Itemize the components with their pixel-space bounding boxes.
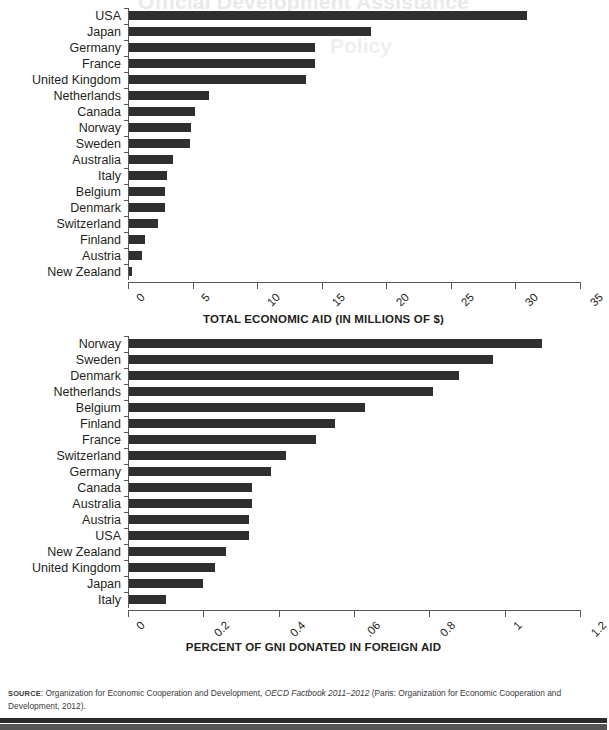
bar-row: France	[0, 432, 607, 448]
bar-track	[128, 432, 607, 448]
bar-category-label: Sweden	[0, 136, 128, 152]
bar-track	[128, 104, 607, 120]
axis-tick	[386, 282, 387, 289]
bar-category-label: France	[0, 56, 128, 72]
bar-row: Netherlands	[0, 88, 607, 104]
bar-category-label: Canada	[0, 104, 128, 120]
bar	[128, 419, 335, 428]
bar-category-label: Sweden	[0, 352, 128, 368]
bar-row: Australia	[0, 152, 607, 168]
bar-category-label: France	[0, 432, 128, 448]
source-text-part1: : Organization for Economic Cooperation …	[41, 688, 265, 698]
bar-track	[128, 464, 607, 480]
chart-2-bar-rows: NorwaySwedenDenmarkNetherlandsBelgiumFin…	[0, 336, 607, 608]
bar-row: Switzerland	[0, 216, 607, 232]
bar-row: Canada	[0, 480, 607, 496]
bar-category-label: Netherlands	[0, 384, 128, 400]
bar-row: Japan	[0, 24, 607, 40]
axis-tick	[322, 282, 323, 289]
bar	[128, 123, 191, 132]
bar-category-label: Austria	[0, 248, 128, 264]
bar	[128, 59, 315, 68]
bar	[128, 387, 433, 396]
bar-track	[128, 152, 607, 168]
chart-1-value-axis: 05101520253035	[128, 282, 580, 283]
bar	[128, 43, 315, 52]
bar-category-label: USA	[0, 8, 128, 24]
bar-category-label: Belgium	[0, 184, 128, 200]
bar-row: Australia	[0, 496, 607, 512]
bar-track	[128, 248, 607, 264]
axis-tick	[279, 610, 280, 617]
axis-tick	[580, 610, 581, 617]
bar-category-label: Norway	[0, 120, 128, 136]
bar-category-label: Japan	[0, 24, 128, 40]
axis-tick-label: 10	[265, 291, 283, 309]
bar	[128, 563, 215, 572]
axis-tick-label: 0	[134, 291, 147, 304]
bar-category-label: Australia	[0, 496, 128, 512]
axis-tick	[354, 610, 355, 617]
bar-category-label: Australia	[0, 152, 128, 168]
bar	[128, 531, 249, 540]
bar-row: USA	[0, 8, 607, 24]
chart-1-category-axis	[128, 8, 129, 280]
bar-track	[128, 528, 607, 544]
bar-row: United Kingdom	[0, 72, 607, 88]
bar-track	[128, 496, 607, 512]
bar-category-label: Italy	[0, 168, 128, 184]
bar-track	[128, 512, 607, 528]
bar-row: Norway	[0, 120, 607, 136]
bar-track	[128, 24, 607, 40]
bar-category-label: Netherlands	[0, 88, 128, 104]
bar-row: Finland	[0, 416, 607, 432]
bar-track	[128, 88, 607, 104]
axis-tick-label: 20	[394, 291, 412, 309]
axis-tick	[451, 282, 452, 289]
bar-track	[128, 168, 607, 184]
bar	[128, 547, 226, 556]
axis-tick	[515, 282, 516, 289]
bar-category-label: New Zealand	[0, 544, 128, 560]
bar-row: Germany	[0, 464, 607, 480]
chart-percent-gni-foreign-aid: NorwaySwedenDenmarkNetherlandsBelgiumFin…	[0, 336, 607, 666]
bar	[128, 515, 249, 524]
bar-row: Italy	[0, 168, 607, 184]
bar-row: Belgium	[0, 184, 607, 200]
bar	[128, 171, 167, 180]
bar-track	[128, 352, 607, 368]
bar	[128, 355, 493, 364]
axis-tick	[128, 282, 129, 289]
bar	[128, 187, 165, 196]
axis-tick	[128, 610, 129, 617]
bar	[128, 91, 209, 100]
bar-track	[128, 184, 607, 200]
bar-track	[128, 120, 607, 136]
bar-category-label: New Zealand	[0, 264, 128, 280]
axis-tick-label: 25	[459, 291, 477, 309]
bar-category-label: Germany	[0, 40, 128, 56]
bar	[128, 251, 142, 260]
chart-1-plot-area: USAJapanGermanyFranceUnited KingdomNethe…	[0, 8, 607, 283]
bar-row: New Zealand	[0, 544, 607, 560]
bar	[128, 235, 145, 244]
bar	[128, 403, 365, 412]
chart-2-plot-area: NorwaySwedenDenmarkNetherlandsBelgiumFin…	[0, 336, 607, 611]
bar-category-label: Canada	[0, 480, 128, 496]
bar-row: Finland	[0, 232, 607, 248]
bar-category-label: Germany	[0, 464, 128, 480]
bar-row: Germany	[0, 40, 607, 56]
bar-row: Norway	[0, 336, 607, 352]
axis-tick-label: 1	[511, 619, 524, 632]
bar	[128, 339, 542, 348]
chart-1-axis-title: TOTAL ECONOMIC AID (IN MILLIONS OF $)	[0, 313, 607, 325]
bar	[128, 579, 203, 588]
bar-row: Sweden	[0, 352, 607, 368]
bar-row: Denmark	[0, 368, 607, 384]
bar-row: Canada	[0, 104, 607, 120]
bar-track	[128, 480, 607, 496]
axis-tick-label: 0	[134, 619, 147, 632]
bar-track	[128, 72, 607, 88]
bar	[128, 155, 173, 164]
chart-2-value-axis: 00.20.4.060.811.2	[128, 610, 580, 611]
